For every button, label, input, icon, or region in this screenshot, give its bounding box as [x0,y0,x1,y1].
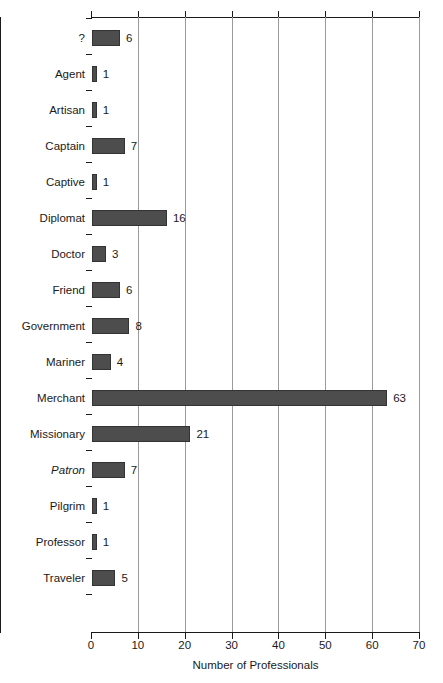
category-label-professor: Professor [0,524,85,560]
top-tick-40 [278,11,279,17]
value-label-pilgrim: 1 [103,488,109,524]
bar-traveler [92,570,115,586]
bar-row: Pilgrim1 [0,488,443,524]
bar-row: Missionary21 [0,416,443,452]
bar-row: Artisan1 [0,92,443,128]
value-label-traveler: 5 [121,560,127,596]
category-label-doctor: Doctor [0,236,85,272]
bar- [92,30,120,46]
bar-chart: ?6Agent1Artisan1Captain7Captive1Diplomat… [0,0,443,683]
bar-artisan [92,102,97,118]
top-tick-50 [325,11,326,17]
bar-row: Captive1 [0,164,443,200]
value-label-government: 8 [135,308,141,344]
value-label-captain: 7 [131,128,137,164]
bar-row: ?6 [0,20,443,56]
y-axis-minor-tick [86,18,92,19]
value-label-artisan: 1 [103,92,109,128]
bar-row: Government8 [0,308,443,344]
bar-missionary [92,426,190,442]
value-label-professor: 1 [103,524,109,560]
top-tick-20 [185,11,186,17]
bar-row: Diplomat16 [0,200,443,236]
value-label-doctor: 3 [112,236,118,272]
value-label-diplomat: 16 [173,200,186,236]
bar-government [92,318,129,334]
bar-row: Merchant63 [0,380,443,416]
bar-row: Traveler5 [0,560,443,596]
category-label-pilgrim: Pilgrim [0,488,85,524]
bar-merchant [92,390,387,406]
bar-row: Friend6 [0,272,443,308]
top-tick-60 [372,11,373,17]
x-tick-label-60: 60 [352,639,392,651]
x-tick-label-10: 10 [118,639,158,651]
category-label-captain: Captain [0,128,85,164]
bar-mariner [92,354,111,370]
x-axis-line [91,632,420,633]
bar-row: Doctor3 [0,236,443,272]
top-tick-70 [419,11,420,17]
value-label-: 6 [126,20,132,56]
value-label-mariner: 4 [117,344,123,380]
bar-row: Patron7 [0,452,443,488]
category-label-diplomat: Diplomat [0,200,85,236]
category-label-agent: Agent [0,56,85,92]
bar-pilgrim [92,498,97,514]
x-tick-label-70: 70 [399,639,439,651]
bar-captive [92,174,97,190]
value-label-merchant: 63 [393,380,406,416]
x-tick-label-0: 0 [71,639,111,651]
bar-professor [92,534,97,550]
x-axis-title: Number of Professionals [91,659,420,671]
bar-row: Captain7 [0,128,443,164]
category-label-patron: Patron [0,452,85,488]
plot-top-border [91,17,420,18]
top-tick-30 [232,11,233,17]
category-label-traveler: Traveler [0,560,85,596]
x-tick-label-40: 40 [258,639,298,651]
category-label-merchant: Merchant [0,380,85,416]
bar-agent [92,66,97,82]
bar-diplomat [92,210,167,226]
x-tick-label-30: 30 [212,639,252,651]
value-label-captive: 1 [103,164,109,200]
top-tick-10 [138,11,139,17]
category-label-mariner: Mariner [0,344,85,380]
category-label-captive: Captive [0,164,85,200]
value-label-friend: 6 [126,272,132,308]
bar-friend [92,282,120,298]
category-label-friend: Friend [0,272,85,308]
bar-captain [92,138,125,154]
value-label-patron: 7 [131,452,137,488]
bar-patron [92,462,125,478]
x-tick-label-20: 20 [165,639,205,651]
bar-row: Agent1 [0,56,443,92]
x-tick-label-50: 50 [305,639,345,651]
bar-row: Mariner4 [0,344,443,380]
bar-doctor [92,246,106,262]
category-label-missionary: Missionary [0,416,85,452]
category-label-artisan: Artisan [0,92,85,128]
value-label-agent: 1 [103,56,109,92]
value-label-missionary: 21 [196,416,209,452]
bar-row: Professor1 [0,524,443,560]
top-tick-0 [91,11,92,17]
category-label-government: Government [0,308,85,344]
category-label-: ? [0,20,85,56]
